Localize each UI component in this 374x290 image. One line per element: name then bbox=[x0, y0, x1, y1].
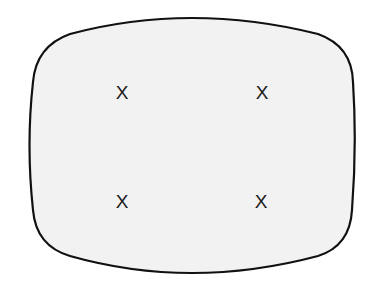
mark-bottom-left: X bbox=[116, 191, 129, 212]
mark-top-left: X bbox=[116, 82, 129, 103]
mark-top-right: X bbox=[256, 82, 269, 103]
mark-bottom-right: X bbox=[255, 191, 268, 212]
crt-screen-diagram: X X X X bbox=[0, 0, 374, 290]
screen-outline bbox=[30, 18, 355, 273]
